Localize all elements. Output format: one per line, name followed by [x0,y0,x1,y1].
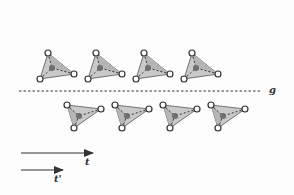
bottom-row-tetrahedra [64,102,248,131]
diagram-svg [0,0,294,195]
translation-prime-label: t' [54,173,62,184]
glide-plane-diagram: g t t' [0,0,294,195]
tetrahedron-top-1 [37,50,77,82]
tetrahedron-top-3 [133,50,173,82]
top-row-tetrahedra [37,50,221,82]
tetrahedron-bottom-1 [64,102,104,131]
tetrahedron-bottom-4 [208,102,248,131]
tetrahedron-top-2 [85,50,125,82]
tetrahedron-top-4 [181,50,221,82]
glide-plane-label: g [269,84,276,95]
tetrahedron-bottom-3 [160,102,200,131]
tetrahedron-bottom-2 [112,102,152,131]
translation-label: t [85,156,90,167]
